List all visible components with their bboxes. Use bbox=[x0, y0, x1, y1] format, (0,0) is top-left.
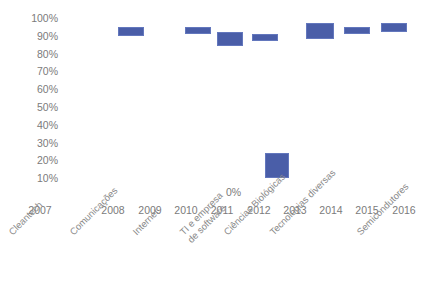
y-axis-tick-label: 60% bbox=[2, 84, 58, 95]
y-axis: 100%90%80%70%60%50%40%30%20%10% bbox=[0, 0, 58, 220]
plot-area bbox=[60, 18, 420, 196]
y-axis-tick-label: 30% bbox=[2, 138, 58, 149]
chart-bar bbox=[252, 34, 278, 41]
y-axis-tick-label: 70% bbox=[2, 66, 58, 77]
y-axis-tick-label: 10% bbox=[2, 173, 58, 184]
y-axis-tick-label: 90% bbox=[2, 31, 58, 42]
chart-bar bbox=[118, 27, 144, 36]
x-axis-year-label: 2016 bbox=[392, 204, 415, 216]
y-axis-tick-label: 40% bbox=[2, 120, 58, 131]
y-axis-tick-label: 20% bbox=[2, 155, 58, 166]
y-axis-tick-label: 100% bbox=[2, 13, 58, 24]
chart-bar bbox=[217, 32, 243, 46]
chart-container: 100%90%80%70%60%50%40%30%20%10% 0% 20072… bbox=[0, 0, 425, 307]
y-axis-tick-label: 80% bbox=[2, 49, 58, 60]
x-axis-categories: CleantechComunicaçõesInternetTI e empres… bbox=[0, 224, 425, 307]
y-axis-tick-label: 50% bbox=[2, 102, 58, 113]
chart-bar bbox=[381, 23, 407, 32]
x-axis-year-label: 2014 bbox=[319, 204, 342, 216]
chart-bar bbox=[344, 27, 370, 34]
chart-bar bbox=[185, 27, 211, 34]
chart-bar bbox=[306, 23, 334, 39]
